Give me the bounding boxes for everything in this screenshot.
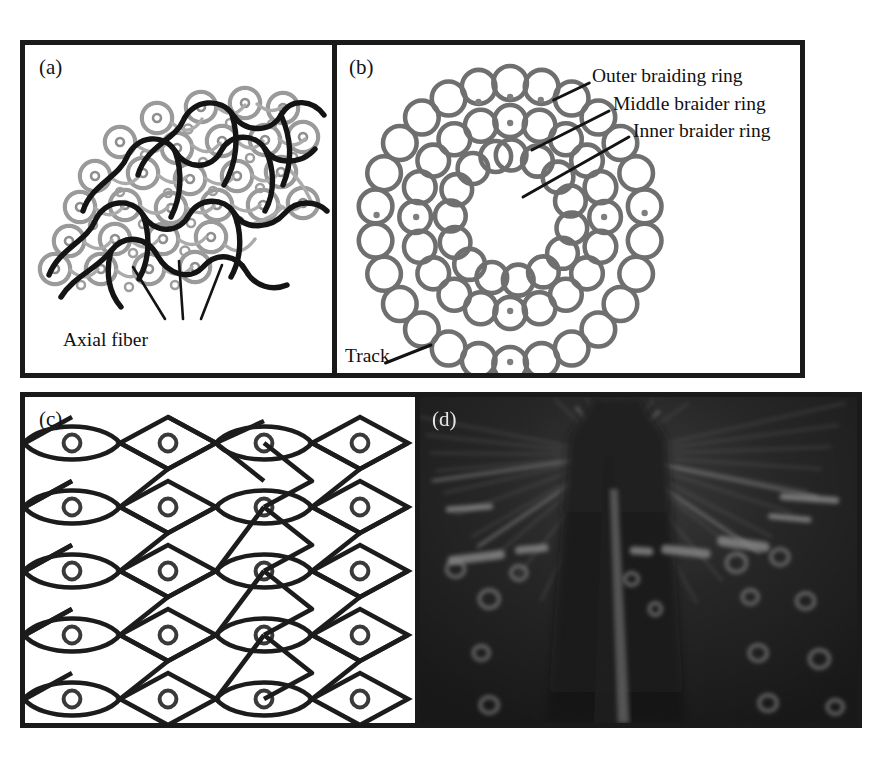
panel-d-label: (d) [432,409,457,430]
panel-d: (d) [420,397,857,723]
panel-group-top: (a) [20,40,805,378]
braid-lattice-rows [25,417,408,723]
braid-lattice-row [25,481,408,533]
callout-outer-braiding-ring: Outer braiding ring [592,65,743,87]
panel-d-photograph [420,397,857,723]
figure-container: (a) [0,0,890,759]
panel-group-bottom: (c) [20,392,862,728]
callout-inner-braider-ring: Inner braider ring [633,120,771,142]
panel-b-label: (b) [349,57,374,78]
panel-a: (a) [25,45,332,373]
panel-b: (b) [337,45,800,373]
callout-middle-braider-ring: Middle braider ring [613,93,766,115]
panel-c: (c) [25,397,415,723]
axial-fiber-label: Axial fiber [63,329,148,351]
panel-a-diagram [25,45,332,373]
panel-c-label: (c) [39,409,62,430]
panel-a-label: (a) [39,57,62,78]
panel-c-diagram [25,397,415,723]
callout-track: Track [345,345,390,367]
inner-braider-ring [435,140,587,296]
